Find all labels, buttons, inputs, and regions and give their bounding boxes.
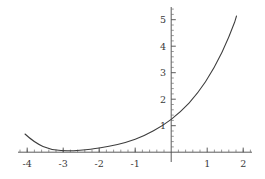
y-tick-label-5: 5 — [160, 14, 166, 25]
x-tick-label-1: 1 — [204, 158, 210, 169]
chart-screenshot: -4 -3 -2 -1 1 2 1 2 3 4 5 — [0, 0, 265, 179]
y-tick-label-2: 2 — [160, 94, 166, 105]
x-tick-label--2: -2 — [95, 158, 104, 169]
x-tick-label--1: -1 — [131, 158, 140, 169]
y-tick-label-1: 1 — [160, 120, 166, 131]
x-tick-label--3: -3 — [59, 158, 68, 169]
function-curve — [25, 16, 237, 151]
exponential-curve-plot: -4 -3 -2 -1 1 2 1 2 3 4 5 — [0, 0, 265, 179]
x-tick-label--4: -4 — [23, 158, 32, 169]
x-axis-major-ticks — [27, 148, 243, 153]
y-tick-label-4: 4 — [160, 41, 166, 52]
y-tick-label-3: 3 — [160, 67, 166, 78]
x-tick-label-2: 2 — [240, 158, 246, 169]
